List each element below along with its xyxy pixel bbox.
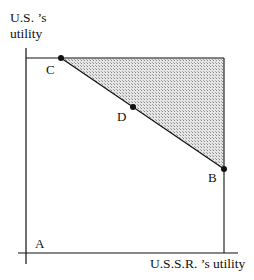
label-c: C xyxy=(46,62,55,78)
y-axis-label-line2: utility xyxy=(10,26,46,42)
label-a: A xyxy=(35,236,44,252)
point-b xyxy=(221,166,227,172)
label-b: B xyxy=(208,170,217,186)
label-d: D xyxy=(117,109,126,125)
point-d xyxy=(130,104,136,110)
x-axis-label: U.S.S.R. ’s utility xyxy=(150,256,245,272)
y-axis-label: U.S. ’s utility xyxy=(10,10,46,42)
y-axis-label-line1: U.S. ’s xyxy=(10,10,46,26)
point-c xyxy=(58,55,64,61)
